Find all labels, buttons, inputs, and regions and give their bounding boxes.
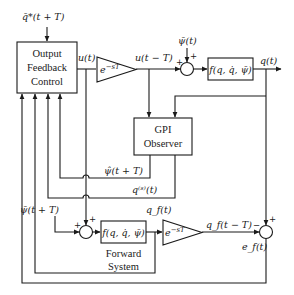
sign-minus-left-error: −: [253, 220, 260, 230]
forward-delayed-label: q_f(t − T): [206, 219, 252, 231]
sign-plus-top-forward: +: [89, 214, 96, 224]
forward-caption-line-1: Forward: [106, 248, 142, 259]
block-diagram: q̄*(t + T) Output Feedback Control u(t) …: [0, 0, 294, 295]
output-label: q(t): [260, 55, 278, 66]
disturbance-estimate-label: ψ̂(t + T): [104, 165, 143, 176]
summing-junction-error: + −: [253, 214, 276, 239]
delay-top-exp: −sT: [106, 63, 121, 71]
output-feedback-control-block: Output Feedback Control: [17, 42, 77, 93]
delay-block-top: e−sT: [97, 57, 136, 82]
delay-bottom-exp: −sT: [171, 226, 186, 234]
predicted-disturbance-label: ψ̄(t + T): [20, 204, 59, 215]
controller-line-3: Control: [31, 76, 63, 87]
forward-model-label: f(q, q̇, ψ̄): [101, 227, 145, 238]
forward-output-label: q_f(t): [146, 204, 172, 216]
reference-signal: q̄*(t + T): [22, 11, 65, 41]
forward-caption-line-2: System: [108, 261, 139, 272]
sign-plus-left: +: [176, 57, 183, 67]
forward-system-block: f(q, q̇, ψ̄): [101, 221, 146, 243]
disturbance-label: ψ̄(t): [178, 35, 197, 46]
output-derivatives-label: q⁽ˢ⁾(t): [132, 184, 157, 195]
controller-line-1: Output: [32, 48, 61, 59]
plant-label: f(q, q̇, ψ̄): [208, 64, 252, 75]
observer-line-2: Observer: [144, 138, 183, 149]
controller-line-2: Feedback: [27, 62, 68, 73]
sign-plus-left-forward: +: [74, 220, 81, 230]
gpi-observer-block: GPI Observer: [134, 118, 192, 155]
forward-error-label: e_f(t): [242, 241, 267, 253]
plant-block: f(q, q̇, ψ̄): [208, 58, 253, 80]
observer-line-1: GPI: [155, 124, 172, 135]
reference-label: q̄*(t + T): [22, 11, 65, 22]
output-to-observer-arrow: [175, 96, 266, 117]
control-signal-label: u(t): [78, 52, 96, 63]
sign-plus-top-error: +: [269, 214, 276, 224]
delay-block-bottom: e−sT: [163, 220, 202, 245]
summing-junction-forward: + +: [74, 214, 96, 239]
delayed-control-label: u(t − T): [135, 52, 173, 63]
sign-plus-top: +: [190, 51, 197, 61]
